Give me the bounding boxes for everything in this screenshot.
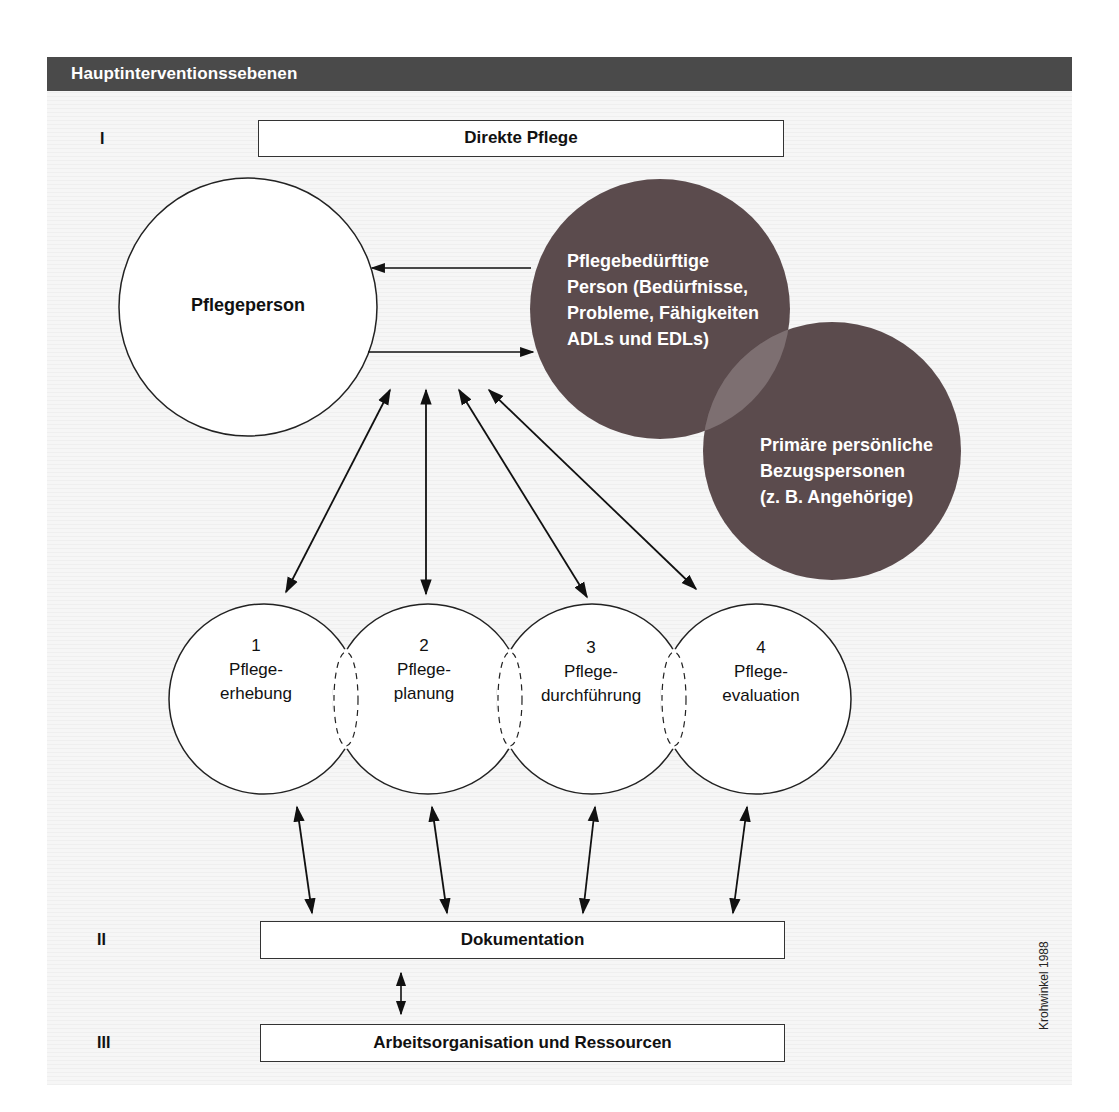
patient-label-line: ADLs und EDLs) <box>567 326 759 352</box>
process-number: 1 <box>220 634 292 658</box>
caregiver-label: Pflegeperson <box>191 295 305 316</box>
patient-label: Pflegebedürftige Person (Bedürfnisse, Pr… <box>567 248 759 352</box>
process-step-1: 1 Pflege- erhebung <box>220 634 292 706</box>
process-label-line: planung <box>394 682 455 706</box>
process-step-3: 3 Pflege- durchführung <box>541 636 641 708</box>
process-step-2: 2 Pflege- planung <box>394 634 455 706</box>
process-label-line: erhebung <box>220 682 292 706</box>
source-credit: Krohwinkel 1988 <box>1037 941 1051 1030</box>
process-number: 3 <box>541 636 641 660</box>
arrow-process2-doc <box>432 807 447 913</box>
arrow-process3-doc <box>583 807 595 913</box>
level-numeral-2: II <box>97 931 106 949</box>
patient-label-line: Pflegebedürftige <box>567 248 759 274</box>
process-label-line: Pflege- <box>541 660 641 684</box>
process-label-line: Pflege- <box>394 658 455 682</box>
process-label-line: durchführung <box>541 684 641 708</box>
relatives-label-line: Bezugspersonen <box>760 458 933 484</box>
level-numeral-1: I <box>100 130 104 148</box>
arrow-process4-doc <box>733 807 747 913</box>
relatives-label-line: Primäre persönliche <box>760 432 933 458</box>
direct-care-box: Direkte Pflege <box>258 120 784 157</box>
arrow-process3-upper <box>459 390 587 597</box>
process-label-line: Pflege- <box>722 660 800 684</box>
relatives-label: Primäre persönliche Bezugspersonen (z. B… <box>760 432 933 510</box>
process-number: 4 <box>722 636 800 660</box>
patient-label-line: Probleme, Fähigkeiten <box>567 300 759 326</box>
process-number: 2 <box>394 634 455 658</box>
relatives-label-line: (z. B. Angehörige) <box>760 484 933 510</box>
patient-label-line: Person (Bedürfnisse, <box>567 274 759 300</box>
process-label-line: Pflege- <box>220 658 292 682</box>
process-label-line: evaluation <box>722 684 800 708</box>
documentation-box: Dokumentation <box>260 921 785 959</box>
process-step-4: 4 Pflege- evaluation <box>722 636 800 708</box>
level-numeral-3: III <box>97 1034 110 1052</box>
resources-box: Arbeitsorganisation und Ressourcen <box>260 1024 785 1062</box>
arrow-process1-doc <box>297 807 312 913</box>
